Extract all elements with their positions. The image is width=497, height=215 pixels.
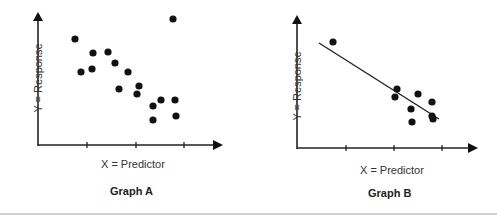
data-point (414, 90, 421, 97)
data-point (104, 48, 111, 55)
data-point (172, 112, 179, 119)
x-axis-label: X = Predictor (360, 164, 424, 176)
data-point (171, 96, 178, 103)
data-point (169, 15, 176, 22)
graph-a: Y = Response X = Predictor Graph A (0, 0, 250, 205)
data-point (124, 68, 131, 75)
data-point (408, 118, 415, 125)
data-point (88, 65, 95, 72)
data-points (71, 15, 179, 123)
data-point (428, 112, 435, 119)
x-axis-arrow-icon (213, 140, 223, 150)
data-point (135, 82, 142, 89)
regression-line (319, 43, 439, 119)
data-point (149, 116, 156, 123)
data-point (115, 85, 122, 92)
x-axis-label: X = Predictor (101, 158, 165, 170)
y-axis-label: Y = Response (291, 36, 303, 136)
y-axis-arrow-icon (292, 15, 302, 24)
data-point (391, 93, 398, 100)
data-point (428, 98, 435, 105)
y-axis-label: Y = Response (32, 28, 44, 128)
data-point (111, 59, 118, 66)
chart-title: Graph A (110, 185, 153, 197)
chart-title: Graph B (368, 187, 411, 199)
y-axis-arrow-icon (33, 12, 43, 21)
data-point (393, 85, 400, 92)
data-point (71, 35, 78, 42)
data-point (77, 68, 84, 75)
data-point (407, 105, 414, 112)
data-point (329, 38, 336, 45)
data-points (329, 38, 436, 125)
data-point (133, 90, 140, 97)
data-point (149, 102, 156, 109)
data-point (157, 96, 164, 103)
x-axis-arrow-icon (468, 143, 478, 153)
data-point (89, 49, 96, 56)
bottom-divider (0, 213, 497, 215)
graph-b: Y = Response X = Predictor Graph B (250, 0, 497, 205)
